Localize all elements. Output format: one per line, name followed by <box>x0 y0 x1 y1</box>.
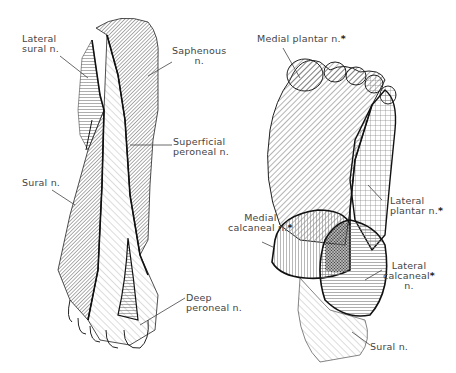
label-line: plantar n. <box>390 205 438 216</box>
label-line: sural n. <box>22 44 59 54</box>
asterisk-icon: * <box>341 33 346 44</box>
label-sural-plantar: Sural n. <box>370 342 408 352</box>
label-deep-peroneal: Deep peroneal n. <box>186 293 242 313</box>
label-line: calcaneal n. <box>228 222 288 233</box>
label-line: n. <box>383 281 435 291</box>
asterisk-icon: * <box>438 205 443 216</box>
label-saphenous: Saphenous n. <box>172 46 226 66</box>
label-line: Sural n. <box>22 178 60 188</box>
plantar-foot <box>268 59 396 362</box>
label-line: peroneal n. <box>173 147 229 157</box>
label-line: Sural n. <box>370 342 408 352</box>
asterisk-icon: * <box>288 222 293 233</box>
label-lateral-sural: Lateral sural n. <box>22 34 59 54</box>
dorsal-foot <box>58 18 158 348</box>
label-line: peroneal n. <box>186 303 242 313</box>
label-medial-plantar: Medial plantar n.* <box>257 34 346 44</box>
foot-nerve-diagram <box>0 0 456 373</box>
label-lateral-calcaneal: Lateral calcaneal* n. <box>383 261 435 291</box>
label-line: n. <box>172 56 226 66</box>
label-medial-calcaneal: Medial calcaneal n.* <box>228 213 293 233</box>
label-superficial-peroneal: Superficial peroneal n. <box>173 137 229 157</box>
asterisk-icon: * <box>430 270 435 281</box>
label-lateral-plantar: Lateral plantar n.* <box>390 196 443 216</box>
label-line: Medial plantar n. <box>257 33 341 44</box>
label-sural-dorsal: Sural n. <box>22 178 60 188</box>
